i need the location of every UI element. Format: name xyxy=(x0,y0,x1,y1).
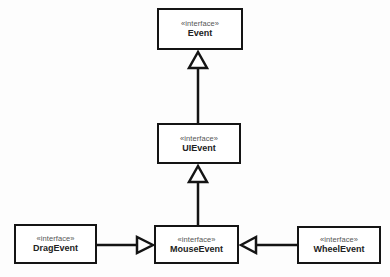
node-event: «interface» Event xyxy=(157,8,243,50)
edge-uievent-to-event xyxy=(189,52,207,123)
interface-name: Event xyxy=(188,28,213,39)
node-dragevent: «interface» DragEvent xyxy=(14,224,97,264)
edge-wheelevent-to-mouseevent xyxy=(241,237,297,253)
interface-name: WheelEvent xyxy=(313,244,364,255)
stereotype-label: «interface» xyxy=(320,235,358,244)
hollow-triangle-arrowhead-icon xyxy=(189,166,207,182)
edge-mouseevent-to-uievent xyxy=(189,166,207,225)
uml-diagram: «interface» Event «interface» UIEvent «i… xyxy=(0,0,390,277)
hollow-triangle-arrowhead-icon xyxy=(241,237,256,253)
hollow-triangle-arrowhead-icon xyxy=(189,52,207,68)
interface-name: UIEvent xyxy=(182,143,216,154)
node-mouseevent: «interface» MouseEvent xyxy=(154,225,239,264)
stereotype-label: «interface» xyxy=(36,234,74,243)
edge-dragevent-to-mouseevent xyxy=(97,237,153,253)
hollow-triangle-arrowhead-icon xyxy=(137,237,153,253)
interface-name: MouseEvent xyxy=(170,244,223,255)
node-uievent: «interface» UIEvent xyxy=(157,123,241,164)
stereotype-label: «interface» xyxy=(177,235,215,244)
stereotype-label: «interface» xyxy=(180,134,218,143)
node-wheelevent: «interface» WheelEvent xyxy=(297,226,381,264)
interface-name: DragEvent xyxy=(33,243,78,254)
stereotype-label: «interface» xyxy=(181,19,219,28)
